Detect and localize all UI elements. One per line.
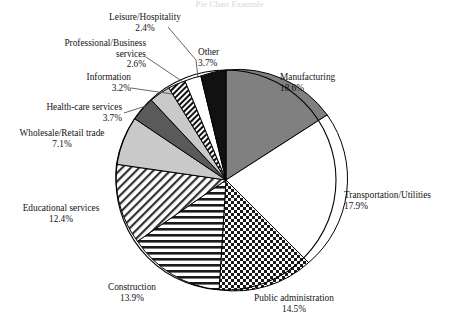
label-wholesale-retail-trade: Wholesale/Retail trade 7.1% <box>2 128 122 149</box>
label-professional-business-services: Professional/Business services 2.6% <box>0 38 146 70</box>
label-professional-business-services-name2: services <box>0 49 146 60</box>
label-health-care-services-name: Health-care services <box>46 102 122 112</box>
label-other: Other 3.7% <box>198 47 268 68</box>
label-construction-pct: 13.9% <box>86 293 178 304</box>
label-wholesale-retail-trade-pct: 7.1% <box>2 139 122 150</box>
label-professional-business-services-pct: 2.6% <box>0 59 146 70</box>
label-public-administration-pct: 14.5% <box>236 304 352 315</box>
label-public-administration-name: Public administration <box>254 293 334 303</box>
label-manufacturing-pct: 18.6% <box>280 83 390 94</box>
label-educational-services-pct: 12.4% <box>2 214 120 225</box>
label-information-name: Information <box>87 72 131 82</box>
label-professional-business-services-name: Professional/Business <box>64 38 146 48</box>
label-manufacturing-name: Manufacturing <box>280 72 335 82</box>
label-leisure-hospitality-name: Leisure/Hospitality <box>109 12 181 22</box>
label-transportation-utilities-pct: 17.9% <box>344 201 459 212</box>
label-educational-services: Educational services 12.4% <box>2 203 120 224</box>
leader-line-leisure <box>168 27 198 78</box>
label-information: Information 3.2% <box>0 72 131 93</box>
label-manufacturing: Manufacturing 18.6% <box>280 72 390 93</box>
leader-line-professional <box>146 57 183 82</box>
pie-chart-figure: Pie Chart Example <box>0 0 459 324</box>
label-health-care-services-pct: 3.7% <box>0 113 122 124</box>
label-construction: Construction 13.9% <box>86 282 178 303</box>
label-health-care-services: Health-care services 3.7% <box>0 102 122 123</box>
label-other-pct: 3.7% <box>198 58 268 69</box>
label-other-name: Other <box>198 47 219 57</box>
label-public-administration: Public administration 14.5% <box>236 293 352 314</box>
label-leisure-hospitality: Leisure/Hospitality 2.4% <box>60 12 230 33</box>
label-leisure-hospitality-pct: 2.4% <box>60 23 230 34</box>
label-transportation-utilities-name: Transportation/Utilities <box>344 190 431 200</box>
label-information-pct: 3.2% <box>0 83 131 94</box>
label-wholesale-retail-trade-name: Wholesale/Retail trade <box>20 128 105 138</box>
label-educational-services-name: Educational services <box>23 203 100 213</box>
label-construction-name: Construction <box>108 282 156 292</box>
label-transportation-utilities: Transportation/Utilities 17.9% <box>344 190 459 211</box>
